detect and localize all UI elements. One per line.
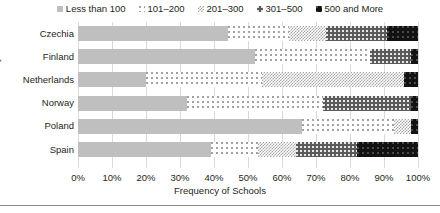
plot-area xyxy=(78,22,418,168)
bar-segment xyxy=(78,72,146,87)
bar-segment xyxy=(411,119,418,134)
y-axis-tick-label: Spain xyxy=(0,145,74,155)
bar-row xyxy=(78,72,418,87)
legend-swatch-icon xyxy=(198,6,204,12)
bar-segment xyxy=(326,26,387,41)
legend-item-4[interactable]: 500 and More xyxy=(316,4,384,14)
bar-segment xyxy=(262,72,405,87)
bar-row xyxy=(78,96,418,111)
y-axis-tick-label: Netherlands xyxy=(0,75,74,85)
legend-swatch-icon xyxy=(57,6,63,12)
bar-segment xyxy=(78,142,211,157)
bar-segment xyxy=(387,26,418,41)
legend-swatch-icon xyxy=(139,6,145,12)
bar-row xyxy=(78,119,418,134)
legend-swatch-icon xyxy=(316,6,322,12)
legend-item-0[interactable]: Less than 100 xyxy=(57,4,126,14)
bar-segment xyxy=(411,49,418,64)
legend-item-2[interactable]: 201–300 xyxy=(198,4,244,14)
y-axis-tick-label: Finland xyxy=(0,52,74,62)
x-axis-title: Frequency of Schools xyxy=(0,186,440,196)
y-axis-tick-label: Poland xyxy=(0,121,74,131)
stacked-bar-chart: Less than 100101–200201–300301–500500 an… xyxy=(0,0,440,213)
legend-item-label: 301–500 xyxy=(266,4,303,14)
footer-rule xyxy=(0,205,440,206)
legend-swatch-icon xyxy=(257,6,263,12)
bar-segment xyxy=(289,26,326,41)
bar-segment xyxy=(357,142,418,157)
chart-legend: Less than 100101–200201–300301–500500 an… xyxy=(0,2,440,16)
bar-segment xyxy=(394,119,411,134)
y-axis-title: Country xyxy=(0,57,1,90)
bar-row xyxy=(78,49,418,64)
bar-segment xyxy=(258,142,295,157)
bar-segment xyxy=(228,26,289,41)
bar-segment xyxy=(211,142,259,157)
legend-item-label: 101–200 xyxy=(148,4,185,14)
bar-segment xyxy=(78,26,228,41)
y-axis-tick-label: Czechia xyxy=(0,29,74,39)
bar-segment xyxy=(302,119,394,134)
bar-segment xyxy=(146,72,262,87)
gridline-100 xyxy=(418,22,419,168)
bar-row xyxy=(78,26,418,41)
bar-segment xyxy=(78,49,255,64)
bar-segment xyxy=(78,119,302,134)
bar-segment xyxy=(404,72,418,87)
bar-segment xyxy=(296,142,357,157)
bar-segment xyxy=(78,96,187,111)
bar-segment xyxy=(323,96,411,111)
bar-row xyxy=(78,142,418,157)
legend-item-3[interactable]: 301–500 xyxy=(257,4,303,14)
bar-segment xyxy=(255,49,371,64)
bar-segment xyxy=(411,96,418,111)
legend-item-label: 500 and More xyxy=(325,4,384,14)
bar-segment xyxy=(370,49,411,64)
x-axis-tick-label: 100% xyxy=(398,173,438,183)
legend-item-label: Less than 100 xyxy=(66,4,126,14)
legend-item-label: 201–300 xyxy=(207,4,244,14)
bar-series-container xyxy=(78,22,418,168)
bar-segment xyxy=(187,96,323,111)
legend-item-1[interactable]: 101–200 xyxy=(139,4,185,14)
y-axis-tick-label: Norway xyxy=(0,98,74,108)
